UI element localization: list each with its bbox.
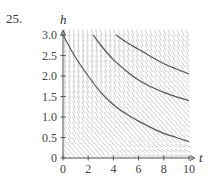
y-axis-label: h [60,12,67,27]
y-tick-label: 2.5 [42,49,57,63]
y-tick-label: 1.5 [42,90,57,104]
y-tick-label: 3.0 [42,28,57,42]
x-tick-label: 8 [161,162,167,176]
y-tick-label: 1.0 [42,110,57,124]
x-tick-label: 10 [183,162,195,176]
direction-field [63,29,191,159]
x-tick-label: 0 [60,162,66,176]
x-tick-label: 2 [85,162,91,176]
y-tick-label: 2.0 [42,69,57,83]
x-tick-label: 4 [110,162,116,176]
x-axis-label: t [199,150,203,165]
x-tick-label: 6 [136,162,142,176]
y-tick-label: 0.5 [42,131,57,145]
y-tick-label: 0 [51,151,57,165]
direction-field-chart: 024681000.51.01.52.02.53.0th [0,0,211,186]
